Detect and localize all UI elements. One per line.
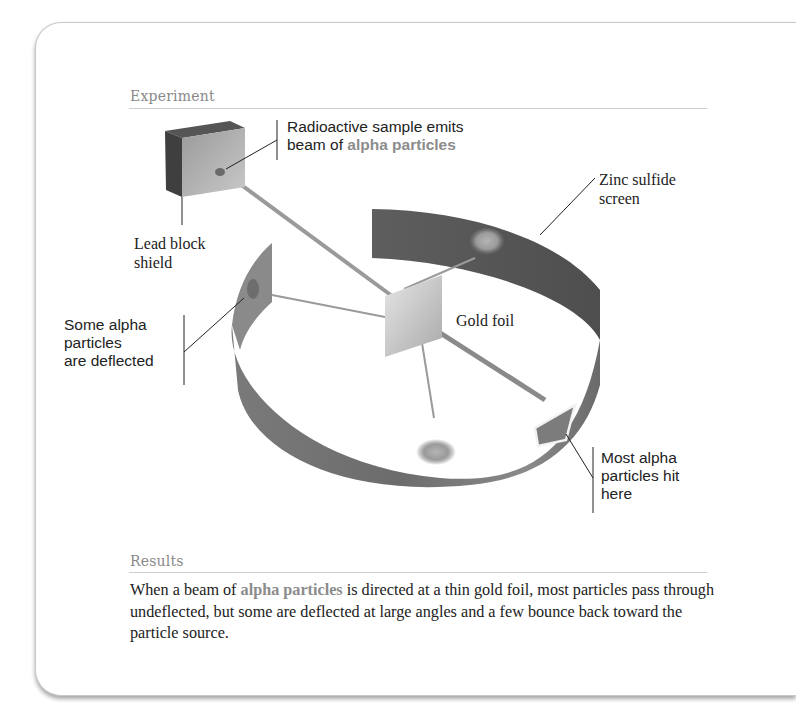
deflected-hit-spot (247, 279, 259, 299)
zinc-sulfide-screen-front (232, 325, 600, 487)
results-accent: alpha particles (241, 581, 343, 599)
lower-hit-spot (416, 439, 456, 465)
gold-foil (385, 275, 442, 357)
alpha-particles-accent: alpha particles (347, 136, 456, 153)
label-radioactive-sample: Radioactive sample emits beam of alpha p… (287, 118, 464, 154)
label-radioactive-sample-line1: Radioactive sample emits (287, 118, 464, 136)
label-deflected-line3: are deflected (64, 352, 154, 370)
results-prefix: When a beam of (130, 581, 241, 599)
label-most-line2: particles hit (601, 467, 679, 485)
results-heading: Results (130, 553, 184, 569)
label-zinc-line1: Zinc sulfide (599, 170, 676, 189)
label-lead-line1: Lead block (134, 234, 206, 253)
label-radioactive-sample-line2: beam of alpha particles (287, 136, 464, 154)
label-zinc-line2: screen (599, 189, 676, 208)
radioactive-sample (215, 168, 225, 176)
label-lead-block: Lead block shield (134, 234, 206, 272)
label-deflected-line1: Some alpha (64, 316, 154, 334)
upper-hit-spot (469, 227, 505, 255)
label-most-line1: Most alpha (601, 449, 679, 467)
label-deflected-line2: particles (64, 334, 154, 352)
label-deflected: Some alpha particles are deflected (64, 316, 154, 370)
label-gold-foil: Gold foil (456, 311, 514, 330)
label-zinc-sulfide-screen: Zinc sulfide screen (599, 170, 676, 208)
label-most-line3: here (601, 485, 679, 503)
label-lead-line2: shield (134, 253, 206, 272)
results-rule (129, 572, 707, 573)
label-prefix: beam of (287, 136, 347, 153)
label-most-hit: Most alpha particles hit here (601, 449, 679, 503)
lead-block-shield (165, 121, 245, 197)
results-paragraph: When a beam of alpha particles is direct… (130, 580, 720, 645)
